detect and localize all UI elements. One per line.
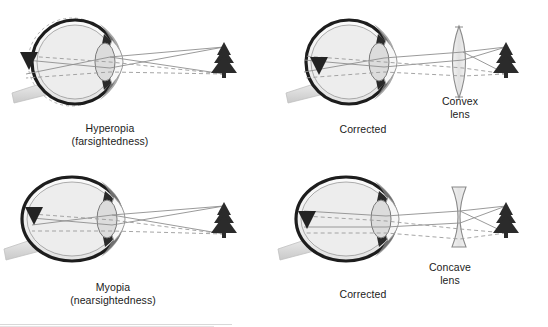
panel-hyperopia-corrected	[274, 0, 548, 120]
caption-myopia: Myopia (nearsightedness)	[18, 281, 208, 306]
label-concave-lens: Concave lens	[405, 261, 495, 286]
scan-artifact-line	[0, 324, 232, 325]
crystalline-lens	[97, 200, 117, 238]
lens-label-line-2: lens	[405, 274, 495, 287]
crystalline-lens	[371, 200, 391, 238]
caption-hyperopia: Hyperopia (farsightedness)	[20, 122, 200, 147]
caption-hyperopia-corrected: Corrected	[303, 123, 423, 136]
caption-line-1: Hyperopia	[86, 122, 135, 134]
lens-label-line-2: lens	[418, 108, 502, 121]
caption-line-2: (nearsightedness)	[18, 294, 208, 307]
pine-tree-icon	[493, 42, 519, 78]
caption-line-1: Corrected	[339, 123, 386, 135]
caption-line-2: (farsightedness)	[20, 135, 200, 148]
label-convex-lens: Convex lens	[418, 95, 502, 120]
panel-hyperopia	[0, 0, 274, 120]
concave-lens-icon	[452, 187, 466, 247]
caption-myopia-corrected: Corrected	[303, 288, 423, 301]
eye-refraction-figure: Hyperopia (farsightedness)	[0, 0, 548, 327]
caption-line-1: Corrected	[339, 288, 386, 300]
convex-lens-icon	[453, 26, 466, 98]
caption-line-1: Myopia	[96, 281, 130, 293]
lens-label-line-1: Concave	[429, 261, 471, 273]
lens-label-line-1: Convex	[442, 95, 478, 107]
panel-myopia	[0, 163, 274, 283]
